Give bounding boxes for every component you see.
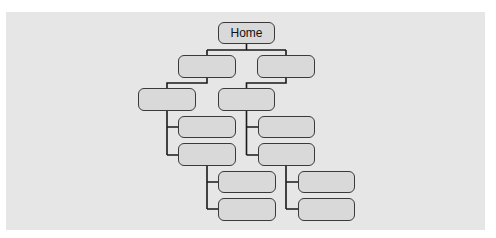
node-home[interactable]: Home	[218, 22, 275, 44]
node-level1-left[interactable]	[178, 55, 236, 78]
node-level1-right[interactable]	[257, 55, 315, 78]
node-level2-right[interactable]	[218, 88, 275, 111]
node-level2-left[interactable]	[138, 88, 196, 111]
node-level4-left-1[interactable]	[218, 171, 276, 193]
node-level3-right-1[interactable]	[258, 116, 315, 138]
node-level3-left-1[interactable]	[178, 116, 236, 138]
node-home-label: Home	[230, 26, 262, 40]
node-level4-left-2[interactable]	[218, 198, 276, 221]
sitemap-diagram: Home	[0, 0, 496, 238]
node-level3-left-2[interactable]	[178, 143, 236, 166]
node-level4-right-2[interactable]	[298, 198, 355, 221]
node-level4-right-1[interactable]	[298, 171, 355, 193]
node-level3-right-2[interactable]	[258, 143, 315, 166]
